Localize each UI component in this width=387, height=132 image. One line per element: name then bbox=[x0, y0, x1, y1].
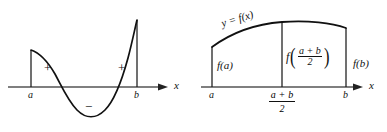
x-axis-arrowhead bbox=[158, 83, 168, 90]
x-axis-arrowhead bbox=[353, 83, 363, 90]
figure-sheet: + − + a b x y = f(x) f(a) bbox=[0, 0, 387, 132]
sign-chart-panel: + − + a b x bbox=[0, 0, 193, 132]
x-tick-label-midpoint: a + b 2 bbox=[269, 89, 295, 114]
x-tick-label-a: a bbox=[209, 90, 214, 100]
sign-chart-graphic bbox=[0, 0, 193, 132]
fb-close-paren: ) bbox=[365, 57, 369, 69]
x-tick-label-b: b bbox=[134, 90, 139, 100]
x-axis-variable-label: x bbox=[174, 80, 179, 91]
simpson-ordinates-panel: y = f(x) f(a) f ( a + b 2 ) f(b) a bbox=[193, 0, 387, 132]
ordinate-label-fb: f(b) bbox=[353, 58, 369, 69]
fmid-f: f bbox=[286, 51, 289, 63]
ordinate-label-fmid: f ( a + b 2 ) bbox=[286, 46, 330, 68]
sign-region-positive-left: + bbox=[44, 61, 51, 74]
midpoint-denominator: 2 bbox=[269, 103, 295, 114]
fa-close-paren: ) bbox=[229, 59, 233, 71]
fmid-numerator: a + b bbox=[298, 46, 322, 56]
x-tick-label-b: b bbox=[343, 90, 348, 100]
midpoint-fraction-bar bbox=[269, 101, 295, 102]
x-tick-label-a: a bbox=[28, 90, 33, 100]
fmid-open-paren: ( bbox=[290, 49, 296, 66]
sign-region-negative-middle: − bbox=[85, 100, 92, 113]
fmid-fraction: a + b 2 bbox=[298, 46, 322, 68]
midpoint-numerator: a + b bbox=[269, 89, 295, 100]
fmid-close-paren: ) bbox=[324, 49, 330, 66]
ordinate-label-fa: f(a) bbox=[217, 60, 233, 71]
x-axis-variable-label: x bbox=[369, 80, 374, 91]
fmid-denominator: 2 bbox=[298, 56, 322, 67]
sign-region-positive-right: + bbox=[118, 61, 125, 74]
